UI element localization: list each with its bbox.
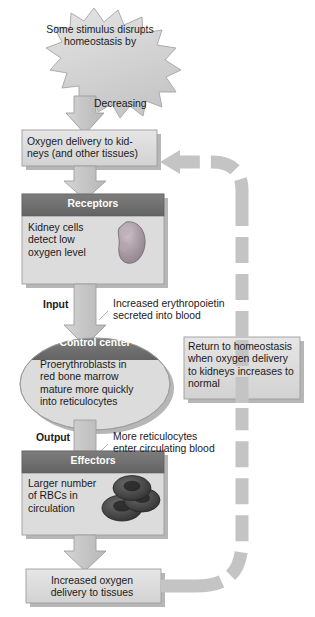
input-detail-text: Increased erythropoietin secreted into b… — [113, 298, 263, 323]
output-label: Output — [36, 432, 70, 444]
input-detail-line-2: secreted into blood — [113, 310, 263, 322]
stimulus-line-1: Some stimulus disrupts — [26, 24, 174, 36]
output-detail-text: More reticulocytes enter circulating blo… — [113, 431, 263, 456]
return-line-2: when oxygen delivery — [188, 353, 306, 365]
control-line-1: Proerythroblasts in — [40, 359, 156, 371]
input-label: Input — [43, 299, 68, 311]
receptors-line-2: detect low — [28, 234, 102, 246]
return-line-3: to kidneys increases to — [188, 366, 306, 378]
return-line-1: Return to homeostasis — [188, 341, 306, 353]
control-line-2: red bone marrow — [40, 371, 156, 383]
oxygen-delivery-text: Oxygen delivery to kid- neys (and other … — [27, 136, 153, 161]
decreasing-label: Decreasing — [94, 98, 147, 110]
output-detail-line-2: enter circulating blood — [113, 443, 263, 455]
return-homeostasis-text: Return to homeostasis when oxygen delive… — [188, 341, 306, 390]
control-line-3: mature more quickly — [40, 384, 156, 396]
receptors-header: Receptors — [22, 198, 164, 210]
receptors-body-text: Kidney cells detect low oxygen level — [28, 222, 102, 259]
increased-oxygen-text: Increased oxygen delivery to tissues — [30, 575, 154, 600]
increased-line-2: delivery to tissues — [30, 587, 154, 599]
output-detail-line-1: More reticulocytes — [113, 431, 263, 443]
return-line-4: normal — [188, 378, 306, 390]
connector-effectors-to-increased — [64, 535, 106, 571]
effectors-body-text: Larger number of RBCs in circulation — [28, 478, 104, 515]
stimulus-text: Some stimulus disrupts homeostasis by — [26, 24, 174, 49]
feedback-arrowhead-icon — [160, 150, 180, 174]
receptors-line-1: Kidney cells — [28, 222, 102, 234]
control-center-header: Control center — [22, 337, 168, 349]
control-line-4: into reticulocytes — [40, 396, 156, 408]
diagram-canvas: Some stimulus disrupts homeostasis by De… — [0, 0, 315, 617]
receptors-line-3: oxygen level — [28, 247, 102, 259]
effectors-line-3: circulation — [28, 503, 104, 515]
epo-leader-line — [99, 311, 108, 320]
stimulus-line-2: homeostasis by — [26, 36, 174, 48]
oxygen-line-2: neys (and other tissues) — [27, 148, 153, 160]
effectors-line-2: of RBCs in — [28, 490, 104, 502]
control-center-body-text: Proerythroblasts in red bone marrow matu… — [40, 359, 156, 408]
effectors-line-1: Larger number — [28, 478, 104, 490]
input-detail-line-1: Increased erythropoietin — [113, 298, 263, 310]
effectors-header: Effectors — [22, 455, 164, 467]
increased-line-1: Increased oxygen — [30, 575, 154, 587]
oxygen-line-1: Oxygen delivery to kid- — [27, 136, 153, 148]
